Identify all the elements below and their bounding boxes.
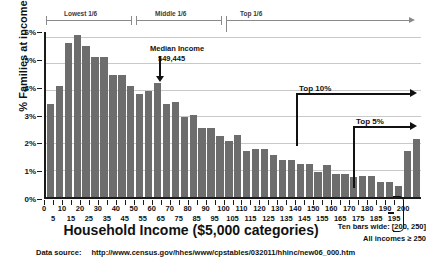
- x-tickmark: [277, 200, 278, 205]
- y-tickmark-3: [37, 116, 42, 117]
- x-tickmark: [143, 200, 144, 205]
- bar: [154, 83, 161, 197]
- x-tickmark: [376, 200, 377, 205]
- bar: [279, 160, 286, 197]
- ten-bars-wide-note: Ten bars wide: [200, 250]: [338, 222, 426, 231]
- x-tickmark: [286, 200, 287, 205]
- bar: [127, 86, 134, 197]
- x-tickmark: [80, 200, 81, 205]
- bar: [314, 172, 321, 197]
- bar: [65, 43, 72, 197]
- plot-area: [44, 32, 421, 199]
- x-axis-title: Household Income ($5,000 categories): [36, 222, 346, 238]
- segment-top-label: Top 1/6: [240, 10, 262, 17]
- x-tickmark: [89, 200, 90, 205]
- y-tick-5: 5%: [24, 55, 36, 64]
- bar: [261, 149, 268, 197]
- segment-middle-label: Middle 1/6: [155, 10, 186, 17]
- bar: [91, 57, 98, 197]
- x-tickmark: [367, 200, 368, 205]
- segment-top-drop-line: [226, 20, 227, 32]
- bar: [163, 104, 170, 197]
- x-tickmark: [107, 200, 108, 205]
- bar: [225, 141, 232, 197]
- bar: [359, 176, 366, 197]
- chart-root: Lowest 1/6 Middle 1/6 Top 1/6 % Families…: [0, 0, 432, 263]
- x-tickmark: [53, 200, 54, 205]
- y-tickmark-5: [37, 60, 42, 61]
- x-tickmark: [224, 200, 225, 205]
- top5-horizontal-line: [353, 126, 412, 128]
- median-arrowhead-icon: [156, 76, 164, 82]
- x-tickmark: [268, 200, 269, 205]
- y-tickmark-1: [37, 171, 42, 172]
- segment-lowest-label: Lowest 1/6: [64, 10, 97, 17]
- y-tick-6: 6%: [24, 28, 36, 37]
- x-tickmark: [241, 200, 242, 205]
- x-tickmark: [340, 200, 341, 205]
- x-tickmark: [304, 200, 305, 205]
- top10-vertical-line: [296, 93, 298, 146]
- y-tick-2: 2%: [24, 139, 36, 148]
- bar: [332, 174, 339, 197]
- bar: [288, 160, 295, 197]
- x-tickmark: [250, 200, 251, 205]
- bar: [243, 151, 250, 197]
- y-tickmark-2: [37, 143, 42, 144]
- segment-middle-left-tick: [136, 16, 137, 25]
- segment-middle-right-tick: [221, 16, 222, 25]
- y-tickmark-0: [37, 199, 42, 200]
- x-tickmark: [161, 200, 162, 205]
- top5-arrowhead-icon: [410, 122, 417, 130]
- segment-lowest-right-tick: [131, 16, 132, 25]
- bar: [47, 104, 54, 197]
- bar: [190, 115, 197, 197]
- bar: [109, 75, 116, 197]
- x-tickmark: [197, 200, 198, 205]
- x-tickmark: [331, 200, 332, 205]
- all-incomes-note: All incomes ≥ 250: [363, 234, 426, 243]
- data-source-label: Data source:: [36, 248, 81, 257]
- bar: [404, 151, 411, 197]
- x-tickmark: [125, 200, 126, 205]
- x-axis-labels: 0102030405060708090100110120130140150160…: [44, 200, 421, 224]
- x-tickmark: [206, 200, 207, 205]
- x-tickmark: [313, 200, 314, 205]
- x-tickmark: [116, 200, 117, 205]
- x-tickmark: [179, 200, 180, 205]
- x-tickmark: [170, 200, 171, 205]
- segment-top-line: [226, 20, 412, 21]
- bar: [368, 176, 375, 197]
- bar: [323, 165, 330, 197]
- bar: [172, 102, 179, 197]
- top10-label: Top 10%: [299, 84, 331, 93]
- top10-arrowhead-icon: [410, 89, 417, 97]
- x-axis-labels-lower: 5152535455565758595105115125135145155165…: [44, 209, 421, 220]
- bar: [341, 174, 348, 197]
- all-incomes-leader-line: [388, 212, 394, 214]
- x-tickmark: [44, 200, 45, 205]
- bar: [252, 149, 259, 197]
- bar: [198, 128, 205, 197]
- x-tickmark: [259, 200, 260, 205]
- data-source-url[interactable]: http://www.census.gov/hhes/www/cpstables…: [84, 248, 356, 257]
- y-tickmark-6: [37, 32, 42, 33]
- y-tick-4: 4%: [24, 83, 36, 92]
- x-tickmark: [385, 200, 386, 205]
- median-arrow-line: [159, 56, 161, 78]
- bar: [234, 135, 241, 197]
- bar: [145, 91, 152, 197]
- segment-top-arrowhead-icon: [409, 17, 415, 23]
- y-tickmark-4: [37, 88, 42, 89]
- top5-vertical-line: [353, 126, 355, 188]
- bar: [82, 46, 89, 197]
- x-tickmark: [358, 200, 359, 205]
- bar: [100, 57, 107, 197]
- bar: [413, 139, 420, 197]
- segment-lowest-left-tick: [46, 16, 47, 25]
- top10-horizontal-line: [296, 93, 412, 95]
- bar: [207, 128, 214, 197]
- bar: [297, 164, 304, 197]
- median-income-label: Median Income: [150, 44, 204, 54]
- bar: [386, 182, 393, 197]
